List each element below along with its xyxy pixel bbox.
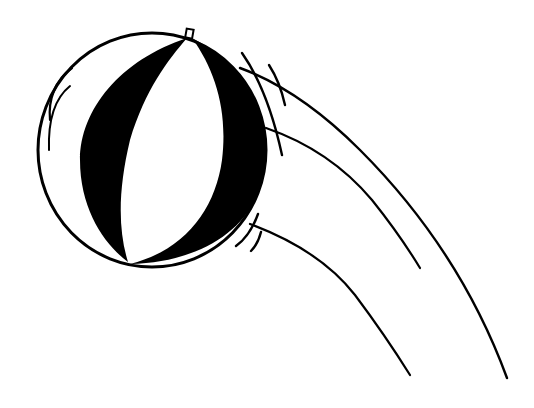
- illustration-canvas: beach ball in motion: [0, 0, 534, 408]
- motion-line-middle: [266, 128, 420, 268]
- motion-line-top: [240, 68, 507, 378]
- speed-stroke-lower-b: [251, 232, 261, 251]
- beach-ball: [38, 29, 266, 267]
- beach-ball-illustration: [0, 0, 534, 408]
- ball-valve: [185, 29, 193, 39]
- motion-lines: [240, 68, 507, 378]
- motion-line-bottom: [250, 224, 410, 375]
